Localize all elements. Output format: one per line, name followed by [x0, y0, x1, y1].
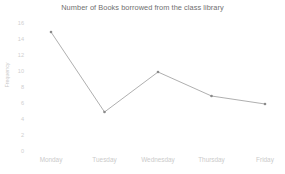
data-point	[103, 111, 106, 114]
data-point	[210, 95, 213, 98]
plot-area	[0, 0, 285, 174]
line-chart: Number of Books borrowed from the class …	[0, 0, 285, 174]
data-point	[50, 31, 53, 34]
data-point	[157, 71, 160, 74]
data-point-markers	[50, 31, 267, 114]
data-point	[264, 103, 267, 106]
